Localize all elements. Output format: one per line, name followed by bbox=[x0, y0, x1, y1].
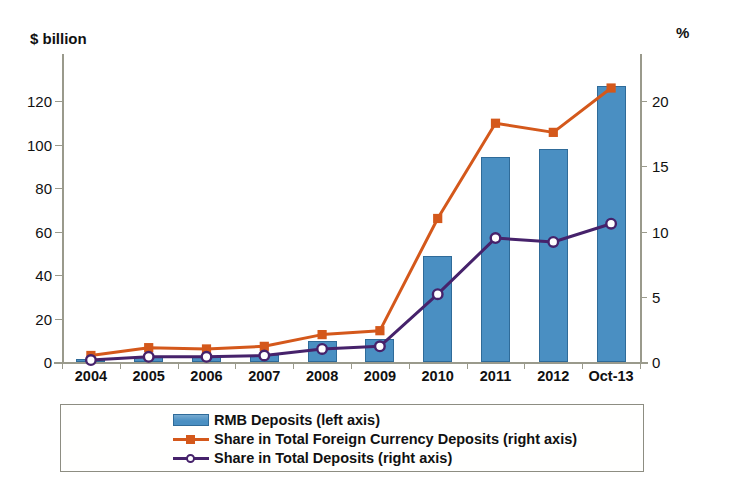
right-tick-label: 15 bbox=[652, 158, 669, 175]
x-tick-label: 2007 bbox=[248, 368, 280, 384]
x-tick-label: 2004 bbox=[75, 368, 107, 384]
legend-bar-swatch-icon bbox=[173, 414, 209, 426]
legend-item-rmb-deposits: RMB Deposits (left axis) bbox=[173, 412, 380, 428]
x-tick-label: 2012 bbox=[537, 368, 569, 384]
circle-marker-icon bbox=[549, 237, 559, 247]
circle-marker-icon bbox=[433, 289, 443, 299]
square-marker-icon bbox=[375, 326, 384, 335]
square-marker-icon bbox=[433, 214, 442, 223]
left-tick-mark bbox=[55, 188, 62, 189]
right-tick-label: 0 bbox=[652, 354, 660, 371]
square-marker-icon bbox=[549, 128, 558, 137]
right-tick-mark bbox=[640, 297, 647, 298]
right-tick-label: 5 bbox=[652, 288, 660, 305]
x-tick-label: 2009 bbox=[364, 368, 396, 384]
x-tick-mark bbox=[467, 362, 468, 369]
right-tick-mark bbox=[640, 232, 647, 233]
x-tick-mark bbox=[235, 362, 236, 369]
left-tick-label: 100 bbox=[27, 136, 52, 153]
square-marker-icon bbox=[318, 330, 327, 339]
x-tick-label: 2008 bbox=[306, 368, 338, 384]
left-tick-mark bbox=[55, 232, 62, 233]
circle-marker-icon bbox=[375, 342, 385, 352]
x-tick-label: 2006 bbox=[190, 368, 222, 384]
left-tick-label: 60 bbox=[35, 223, 52, 240]
chart-figure: $ billion % 020406080100120 05101520 200… bbox=[0, 0, 731, 495]
line-path bbox=[91, 224, 611, 360]
legend-line-swatch-orange-icon bbox=[173, 432, 209, 446]
legend-label-rmb-deposits: RMB Deposits (left axis) bbox=[214, 412, 380, 428]
x-tick-mark bbox=[62, 362, 63, 369]
legend-label-foreign-currency-share: Share in Total Foreign Currency Deposits… bbox=[214, 431, 577, 447]
plot-area: 020406080100120 05101520 200420052006200… bbox=[62, 58, 640, 362]
left-axis-unit-label: $ billion bbox=[30, 30, 87, 47]
circle-marker-icon bbox=[317, 344, 327, 354]
legend-label-total-deposits-share: Share in Total Deposits (right axis) bbox=[214, 450, 452, 466]
line-path bbox=[91, 88, 611, 355]
x-tick-mark bbox=[640, 362, 641, 369]
circle-marker-icon bbox=[144, 352, 154, 362]
circle-marker-icon bbox=[491, 233, 501, 243]
circle-marker-icon bbox=[86, 355, 96, 365]
x-tick-mark bbox=[178, 362, 179, 369]
x-tick-label: 2005 bbox=[133, 368, 165, 384]
circle-marker-icon bbox=[260, 351, 270, 361]
legend-item-foreign-currency-share: Share in Total Foreign Currency Deposits… bbox=[173, 431, 577, 447]
right-tick-mark bbox=[640, 166, 647, 167]
square-marker-icon bbox=[491, 119, 500, 128]
circle-marker-icon bbox=[606, 219, 616, 229]
x-tick-label: 2010 bbox=[422, 368, 454, 384]
right-tick-mark bbox=[640, 101, 647, 102]
left-tick-label: 120 bbox=[27, 93, 52, 110]
left-tick-mark bbox=[55, 319, 62, 320]
chart-legend: RMB Deposits (left axis) Share in Total … bbox=[60, 404, 644, 472]
square-marker-icon bbox=[607, 83, 616, 92]
left-tick-label: 80 bbox=[35, 180, 52, 197]
x-tick-label: 2011 bbox=[480, 368, 511, 384]
legend-item-total-deposits-share: Share in Total Deposits (right axis) bbox=[173, 450, 452, 466]
x-tick-mark bbox=[351, 362, 352, 369]
x-tick-mark bbox=[582, 362, 583, 369]
circle-marker-icon bbox=[202, 352, 212, 362]
left-tick-label: 40 bbox=[35, 267, 52, 284]
right-tick-mark bbox=[640, 362, 647, 363]
left-tick-label: 20 bbox=[35, 310, 52, 327]
left-tick-mark bbox=[55, 101, 62, 102]
x-tick-label: Oct-13 bbox=[589, 368, 634, 384]
left-tick-mark bbox=[55, 145, 62, 146]
x-tick-mark bbox=[524, 362, 525, 369]
legend-line-swatch-purple-icon bbox=[173, 451, 209, 465]
left-tick-label: 0 bbox=[44, 354, 52, 371]
right-tick-label: 20 bbox=[652, 93, 669, 110]
left-tick-mark bbox=[55, 362, 62, 363]
right-axis-unit-label: % bbox=[676, 24, 689, 41]
x-tick-mark bbox=[409, 362, 410, 369]
line-series-group bbox=[62, 58, 640, 362]
x-tick-mark bbox=[293, 362, 294, 369]
right-tick-label: 10 bbox=[652, 223, 669, 240]
left-tick-mark bbox=[55, 275, 62, 276]
x-tick-mark bbox=[120, 362, 121, 369]
